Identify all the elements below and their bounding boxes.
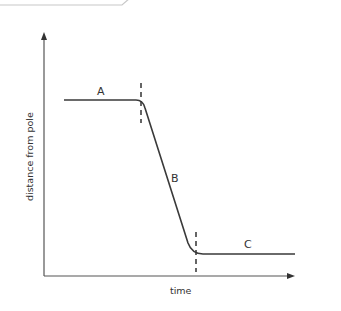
segment-a-label: A xyxy=(97,85,105,98)
chart-diagram: A B C time distance from pole xyxy=(0,0,341,311)
frame-edge xyxy=(0,0,130,5)
x-axis-arrow-icon xyxy=(287,273,295,279)
distance-curve xyxy=(64,100,295,254)
y-axis-arrow-icon xyxy=(41,32,47,40)
segment-b-label: B xyxy=(171,172,179,185)
segment-c-label: C xyxy=(244,238,252,251)
x-axis-label: time xyxy=(170,285,192,296)
axes xyxy=(41,32,295,279)
y-axis-label: distance from pole xyxy=(24,112,35,201)
